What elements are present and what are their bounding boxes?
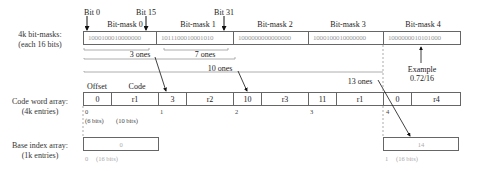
ten-ones-arrow-icon [238,71,247,91]
diagram-connectors [0,0,477,171]
three-ones-arrow-icon [155,57,166,91]
